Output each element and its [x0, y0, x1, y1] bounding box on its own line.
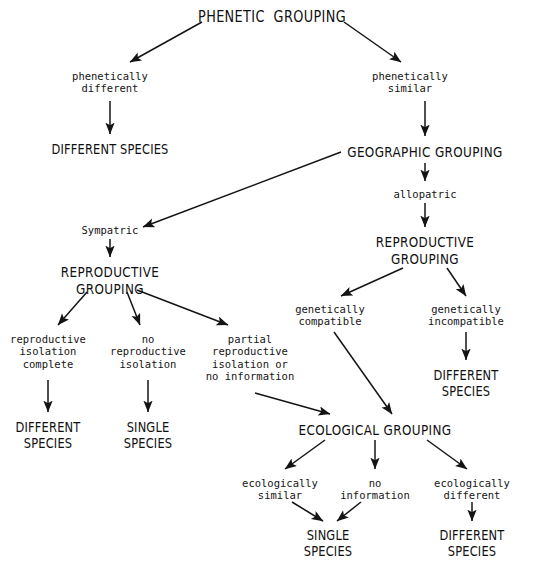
- node-single-species-2: SINGLE SPECIES: [304, 528, 352, 560]
- edge-phenetic-to-different: [130, 22, 202, 62]
- node-reproductive-grouping-left: REPRODUCTIVE GROUPING: [61, 264, 159, 298]
- node-single-species-1: SINGLE SPECIES: [124, 420, 172, 452]
- node-reproductive-isolation-complete: reproductive isolation complete: [10, 333, 86, 370]
- edge-reproductive-right-to-compatible: [341, 268, 403, 296]
- node-different-species-1: DIFFERENT SPECIES: [51, 142, 168, 158]
- node-reproductive-grouping-right: REPRODUCTIVE GROUPING: [376, 234, 474, 268]
- flowchart-canvas: PHENETIC GROUPINGphenetically differentp…: [0, 0, 538, 565]
- node-different-species-3: DIFFERENT SPECIES: [434, 368, 499, 400]
- edge-phenetic-to-similar: [344, 22, 401, 62]
- node-partial-reproductive-isolation: partial reproductive isolation or no inf…: [206, 333, 295, 383]
- node-allopatric: allopatric: [393, 188, 456, 200]
- node-no-reproductive-isolation: no reproductive isolation: [110, 333, 186, 370]
- node-phenetically-different: phenetically different: [72, 70, 148, 95]
- node-no-information: no information: [340, 477, 410, 502]
- node-genetically-incompatible: genetically incompatible: [428, 303, 504, 328]
- edge-geographic-to-sympatric: [143, 152, 341, 227]
- edge-no-information-to-single-species: [337, 502, 361, 521]
- node-phenetically-similar: phenetically similar: [372, 70, 448, 95]
- node-sympatric: Sympatric: [82, 224, 139, 236]
- node-ecologically-different: ecologically different: [434, 477, 510, 502]
- node-geographic-grouping: GEOGRAPHIC GROUPING: [347, 144, 503, 161]
- edge-reproductive-right-to-incompatible: [447, 268, 466, 296]
- node-different-species-4: DIFFERENT SPECIES: [440, 528, 505, 560]
- edge-similar-to-single-species: [292, 502, 323, 521]
- edge-compatible-to-ecological: [334, 332, 392, 414]
- edge-partial-to-ecological: [255, 393, 330, 414]
- node-phenetic-grouping: PHENETIC GROUPING: [198, 8, 346, 26]
- edge-ecological-to-different: [427, 440, 467, 469]
- edge-ecological-to-similar: [285, 440, 325, 469]
- node-ecological-grouping: ECOLOGICAL GROUPING: [299, 422, 452, 439]
- node-genetically-compatible: genetically compatible: [295, 303, 365, 328]
- node-ecologically-similar: ecologically similar: [242, 477, 318, 502]
- node-different-species-2: DIFFERENT SPECIES: [16, 420, 81, 452]
